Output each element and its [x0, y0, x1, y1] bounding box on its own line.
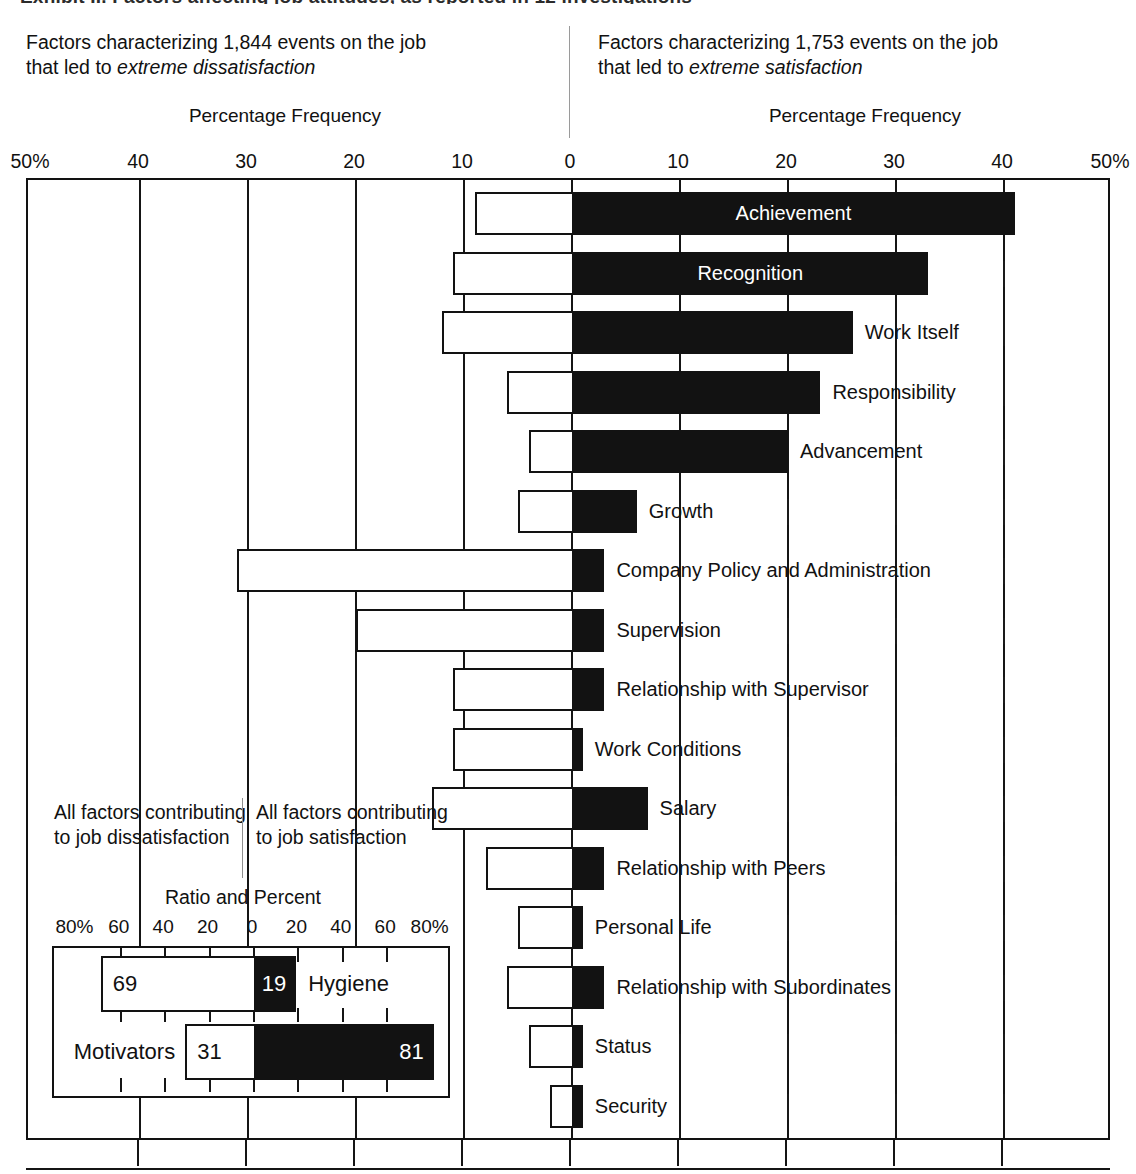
x-axis-tick-labels: 50%4030201001020304050%	[0, 150, 1136, 174]
inset-axis-title: Ratio and Percent	[26, 886, 460, 909]
caption-dissatisfaction-emphasis: extreme dissatisfaction	[117, 56, 315, 78]
bottom-tick-pos10	[677, 1140, 679, 1166]
bar-satisfaction	[572, 787, 648, 830]
caption-divider	[569, 26, 570, 138]
bar-satisfaction	[572, 1025, 583, 1068]
inset-value-satisfaction: 81	[254, 1024, 424, 1080]
bar-category-label: Salary	[660, 787, 717, 830]
label-band-tick	[1003, 856, 1005, 882]
x-tick-neg30: 30	[235, 150, 257, 173]
x-tick-pos0: 0	[565, 150, 576, 173]
caption-dissatisfaction: Factors characterizing 1,844 events on t…	[26, 30, 456, 80]
inset-series-label: Motivators	[45, 1024, 175, 1080]
x-tick-neg20: 20	[343, 150, 365, 173]
label-band-tick	[895, 856, 897, 882]
label-band-tick	[895, 1094, 897, 1120]
inset-tick-pos20: 20	[286, 916, 307, 938]
label-band-tick	[895, 796, 897, 822]
inset-tick-neg40: 40	[153, 916, 174, 938]
label-band-tick	[1003, 380, 1005, 406]
label-band-tick	[787, 915, 789, 941]
bar-satisfaction	[572, 609, 604, 652]
label-band-tick	[787, 1034, 789, 1060]
bar-dissatisfaction	[518, 490, 574, 533]
label-band-tick	[1003, 796, 1005, 822]
bar-category-label: Relationship with Subordinates	[616, 966, 891, 1009]
bar-satisfaction	[572, 371, 820, 414]
x-tick-pos10: 10	[667, 150, 689, 173]
bar-dissatisfaction	[453, 728, 574, 771]
inset-tickmark	[253, 1078, 255, 1092]
inset-tick-pos40: 40	[330, 916, 351, 938]
x-tick-neg40: 40	[127, 150, 149, 173]
bar-category-label: Relationship with Supervisor	[616, 668, 868, 711]
x-tick-pos40: 40	[991, 150, 1013, 173]
bottom-tick-pos0	[569, 1140, 571, 1166]
bar-dissatisfaction	[442, 311, 574, 354]
label-band-tick	[1003, 558, 1005, 584]
inset-tick-pos60: 60	[375, 916, 396, 938]
inset-value-dissatisfaction: 69	[113, 956, 137, 1012]
x-tick-pos50: 50%	[1090, 150, 1129, 173]
label-band-tick	[1003, 915, 1005, 941]
inset-tick-neg80: 80%	[55, 916, 93, 938]
bottom-tick-pos20	[785, 1140, 787, 1166]
bar-dissatisfaction	[518, 906, 574, 949]
label-band-tick	[787, 1094, 789, 1120]
inset-tickmark	[297, 948, 299, 962]
exhibit-title: Exhibit II. Factors affecting job attitu…	[20, 0, 1020, 4]
label-band-tick	[1003, 439, 1005, 465]
inset-tick-neg60: 60	[108, 916, 129, 938]
label-band-tick	[895, 618, 897, 644]
bar-dissatisfaction	[507, 371, 574, 414]
label-band-tick	[1003, 1034, 1005, 1060]
bar-category-label: Relationship with Peers	[616, 847, 825, 890]
bar-category-label: Achievement	[572, 192, 1015, 235]
x-tick-pos30: 30	[883, 150, 905, 173]
inset-ratio-panel: All factors contributing to job dissatis…	[26, 790, 460, 1140]
bottom-axis-rule	[26, 1168, 1110, 1170]
bar-satisfaction	[572, 847, 604, 890]
bar-dissatisfaction	[507, 966, 574, 1009]
bar-dissatisfaction	[453, 668, 574, 711]
bar-satisfaction	[572, 549, 604, 592]
label-band-tick	[679, 1034, 681, 1060]
bar-category-label: Advancement	[800, 430, 922, 473]
chart-canvas: Exhibit II. Factors affecting job attitu…	[0, 0, 1136, 1174]
inset-value-dissatisfaction: 31	[197, 1024, 221, 1080]
bar-category-label: Status	[595, 1025, 652, 1068]
bar-dissatisfaction	[453, 252, 574, 295]
label-band-tick	[787, 499, 789, 525]
bar-dissatisfaction	[529, 430, 574, 473]
bar-dissatisfaction	[529, 1025, 574, 1068]
caption-satisfaction-emphasis: extreme satisfaction	[689, 56, 862, 78]
bottom-tick-neg40	[137, 1140, 139, 1166]
bar-satisfaction	[572, 966, 604, 1009]
inset-tick-neg20: 20	[197, 916, 218, 938]
bar-category-label: Work Conditions	[595, 728, 741, 771]
inset-tick-labels: 80%604020020406080%	[26, 916, 460, 940]
label-band-tick	[1003, 261, 1005, 287]
inset-caption-divider	[242, 798, 243, 878]
inset-tickmark	[297, 1078, 299, 1092]
bar-category-label: Recognition	[572, 252, 928, 295]
bar-dissatisfaction	[356, 609, 574, 652]
bar-category-label: Growth	[649, 490, 713, 533]
bar-dissatisfaction	[486, 847, 574, 890]
inset-caption-dissatisfaction: All factors contributing to job dissatis…	[54, 800, 249, 850]
bottom-tick-neg20	[353, 1140, 355, 1166]
bottom-tick-pos30	[893, 1140, 895, 1166]
inset-tickmark	[164, 1078, 166, 1092]
inset-tickmark	[297, 1008, 299, 1022]
bar-category-label: Security	[595, 1085, 667, 1128]
bottom-tick-neg10	[461, 1140, 463, 1166]
label-band-tick	[1003, 975, 1005, 1001]
bar-satisfaction	[572, 906, 583, 949]
bottom-tick-neg30	[245, 1140, 247, 1166]
bar-category-label: Work Itself	[865, 311, 959, 354]
caption-satisfaction: Factors characterizing 1,753 events on t…	[598, 30, 1028, 80]
label-band-tick	[895, 499, 897, 525]
bar-dissatisfaction	[237, 549, 574, 592]
label-band-tick	[1003, 618, 1005, 644]
inset-series-label: Hygiene	[308, 956, 389, 1012]
